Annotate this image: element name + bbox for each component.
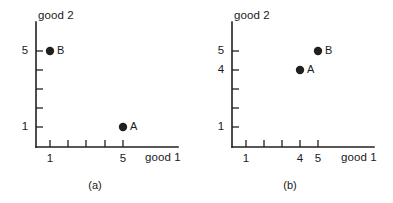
two-panel-scatter-figure: good 2 good 1 5 1 1 5 B A (a) [0, 0, 393, 203]
x-axis-title: good 1 [145, 152, 181, 164]
data-point-a [296, 66, 304, 74]
panel-a-caption: (a) [75, 180, 115, 191]
y-tick-label-4: 4 [214, 64, 228, 76]
x-tick-label-4: 4 [293, 153, 307, 165]
data-point-label-a: A [130, 121, 137, 132]
y-tick-label-5: 5 [214, 45, 228, 57]
y-tick-label-1: 1 [18, 121, 32, 133]
data-point-b [46, 47, 54, 55]
panel-b-caption: (b) [270, 180, 310, 191]
x-tick-label-5: 5 [116, 153, 130, 165]
data-point-label-b: B [57, 45, 64, 56]
y-tick-label-5: 5 [18, 45, 32, 57]
x-axis-title: good 1 [341, 152, 377, 164]
x-tick-label-5: 5 [311, 153, 325, 165]
y-tick-label-1: 1 [214, 121, 228, 133]
data-point-label-b: B [325, 45, 332, 56]
data-point-label-a: A [307, 64, 314, 75]
x-tick-label-1: 1 [43, 153, 57, 165]
panel-a: good 2 good 1 5 1 1 5 B A (a) [0, 0, 196, 203]
data-point-b [314, 47, 322, 55]
x-tick-label-1: 1 [239, 153, 253, 165]
y-axis-title: good 2 [234, 10, 270, 22]
data-point-a [119, 123, 127, 131]
y-axis-title: good 2 [38, 10, 74, 22]
panel-b: good 2 good 1 5 4 1 1 4 5 B A (b) [196, 0, 392, 203]
